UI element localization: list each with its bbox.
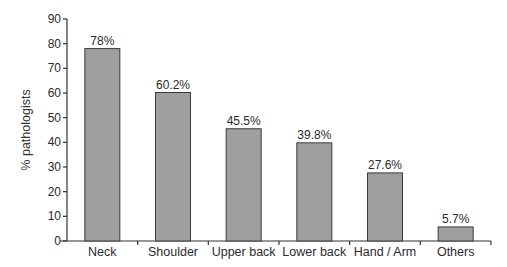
y-tick-label: 90 bbox=[48, 12, 62, 26]
bar-shoulder bbox=[156, 93, 191, 241]
y-tick-label: 80 bbox=[48, 37, 62, 51]
y-tick-label: 30 bbox=[48, 160, 62, 174]
x-category-label: Upper back bbox=[212, 245, 277, 259]
x-category-label: Hand / Arm bbox=[354, 245, 417, 259]
y-tick-label: 40 bbox=[48, 135, 62, 149]
bar-others bbox=[438, 227, 473, 241]
bar-lower-back bbox=[297, 143, 332, 241]
y-tick-label: 70 bbox=[48, 61, 62, 75]
data-label: 39.8% bbox=[297, 128, 331, 142]
bar-hand-arm bbox=[368, 173, 403, 241]
y-tick-label: 20 bbox=[48, 185, 62, 199]
bar-neck bbox=[85, 49, 120, 241]
data-label: 45.5% bbox=[227, 114, 261, 128]
x-category-label: Lower back bbox=[282, 245, 347, 259]
bar-chart: % pathologists 0102030405060708090 78%Ne… bbox=[0, 0, 507, 267]
x-category-label: Neck bbox=[88, 245, 117, 259]
y-axis-title: % pathologists bbox=[19, 89, 33, 170]
y-tick-label: 50 bbox=[48, 111, 62, 125]
x-category-label: Others bbox=[437, 245, 475, 259]
bar-upper-back bbox=[226, 129, 261, 241]
y-tick-label: 10 bbox=[48, 209, 62, 223]
y-tick-label: 60 bbox=[48, 86, 62, 100]
x-category-label: Shoulder bbox=[148, 245, 198, 259]
y-tick-label: 0 bbox=[54, 234, 61, 248]
data-label: 78% bbox=[90, 34, 114, 48]
data-label: 60.2% bbox=[156, 78, 190, 92]
data-label: 27.6% bbox=[368, 158, 402, 172]
data-label: 5.7% bbox=[442, 212, 470, 226]
